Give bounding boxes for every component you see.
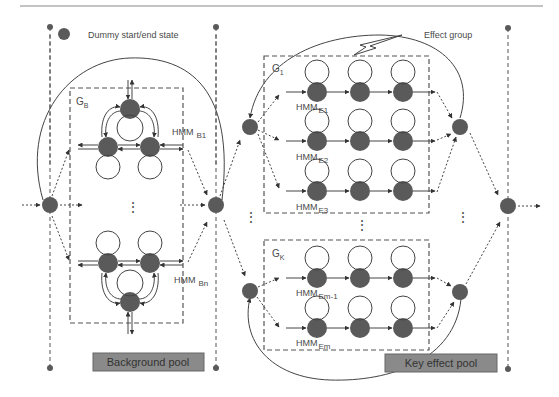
hmm-bn-label: HMMBn <box>174 275 208 288</box>
key-effect-pool-label: Key effect pool <box>405 357 478 369</box>
line-end-dot <box>505 25 511 31</box>
background-pool-label: Background pool <box>107 356 190 368</box>
effect-section: Effect group G1 GK HMME1 <box>242 30 500 380</box>
background-ellipsis: ⋮ <box>126 199 140 215</box>
effect-group-callout: Effect group <box>424 30 472 40</box>
background-section: GB HMMB1 ⋮ <box>22 58 224 371</box>
line-end-dot <box>505 366 511 372</box>
g1-start-node <box>242 119 258 135</box>
hmm-em-row <box>286 296 435 338</box>
dummy-start-node <box>42 197 58 213</box>
timeline-lines <box>50 27 508 369</box>
line-end-dot <box>213 24 219 30</box>
g1-end-node <box>452 119 468 135</box>
group-label-gb: GB <box>76 96 89 109</box>
line-end-dot <box>47 365 53 371</box>
line-end-dot <box>47 24 53 30</box>
group-label-gk: GK <box>272 248 285 261</box>
legend-label: Dummy start/end state <box>88 30 179 40</box>
legend: Dummy start/end state <box>58 28 179 40</box>
gk-start-node <box>242 283 258 299</box>
gk-end-node <box>452 284 468 300</box>
dummy-middle-node <box>208 197 224 213</box>
hmm-pool-diagram: Dummy start/end state GB <box>0 0 559 397</box>
hmm-e2-row <box>286 109 435 151</box>
hmm-e2-label: HMME2 <box>296 152 329 165</box>
group-label-g1: G1 <box>272 63 284 76</box>
legend-node-icon <box>58 28 70 40</box>
effect-ellipsis-right: ⋮ <box>456 209 470 225</box>
hmm-e1-row <box>286 60 435 102</box>
hmm-e3-row <box>286 159 435 201</box>
line-end-dot <box>213 365 219 371</box>
hmm-em-1-label: HMMEm-1 <box>296 288 338 301</box>
hmm-em-label: HMMEm <box>296 338 331 351</box>
hmm-b1 <box>78 80 183 179</box>
callout-arrow-icon <box>354 35 402 55</box>
hmm-bn <box>78 231 183 334</box>
hmm-b1-label: HMMB1 <box>172 127 207 140</box>
dummy-end-node <box>500 198 516 214</box>
hmm-e1-label: HMME1 <box>296 102 329 115</box>
effect-ellipsis-middle: ⋮ <box>355 217 369 233</box>
hmm-em-1-row <box>286 246 435 288</box>
effect-ellipsis-left: ⋮ <box>244 209 258 225</box>
